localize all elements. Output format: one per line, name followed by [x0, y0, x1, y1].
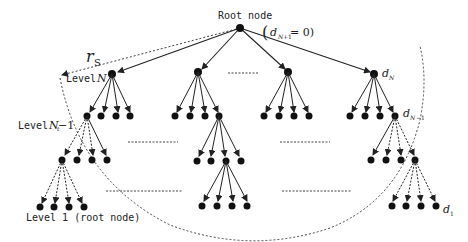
root-edges: [118, 28, 370, 72]
tree-diagram: Root node ( d N +1 = 0) r S Level N Leve…: [0, 0, 468, 242]
level-nt-label: Level N: [66, 72, 107, 85]
d-nt1-label: d N −1: [403, 107, 425, 121]
level-1-label: Level 1 (root node): [26, 212, 140, 223]
svg-text:d: d: [270, 26, 277, 39]
root-node: [236, 24, 244, 32]
level-nt-edges: [90, 72, 393, 112]
svg-text:Level: Level: [18, 120, 48, 131]
level-nt1-edges: [65, 116, 414, 156]
svg-text:N: N: [388, 74, 395, 81]
level-2-nodes: [59, 157, 419, 165]
svg-text:d: d: [443, 203, 450, 216]
svg-text:−1: −1: [58, 119, 74, 132]
d-nt-label: d N: [382, 67, 395, 81]
svg-text:d: d: [382, 67, 389, 80]
root-node-label: Root node: [218, 10, 272, 21]
level-nt1-label: Level N t −1: [18, 119, 74, 132]
level-nt1-nodes: [84, 113, 399, 120]
svg-text:N: N: [96, 72, 107, 85]
svg-text:1: 1: [450, 210, 454, 217]
root-depth-equation: ( d N +1 = 0): [262, 23, 314, 42]
level-1-edges: [42, 160, 435, 203]
svg-text:S: S: [94, 57, 101, 68]
radius-label: r S: [86, 47, 101, 68]
svg-text:Level: Level: [66, 73, 96, 84]
svg-text:d: d: [403, 107, 410, 120]
svg-text:−1: −1: [416, 114, 425, 121]
d-1-label: d 1: [443, 203, 454, 217]
level-1-nodes: [37, 203, 440, 211]
svg-text:= 0): = 0): [290, 26, 314, 39]
svg-text:N: N: [409, 114, 416, 121]
svg-text:(: (: [262, 23, 268, 42]
